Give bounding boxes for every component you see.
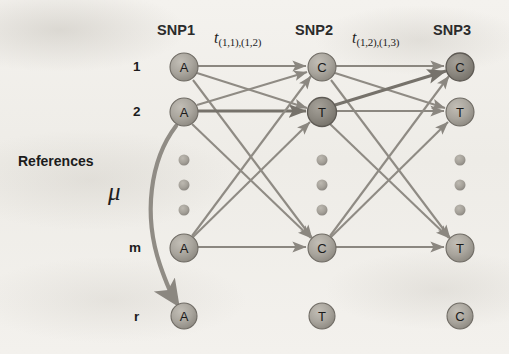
row-label-1: 1 (133, 59, 141, 74)
node-rr-snp2[interactable]: T (309, 303, 335, 329)
edge-s2r2-s3r1 (335, 71, 446, 105)
node-rm-snp3[interactable]: T (446, 234, 474, 262)
row-label-m: m (129, 240, 141, 255)
transition-label-t23: t(1,2),(1,3) (352, 30, 399, 48)
transition-label-subscript: (1,1),(1,2) (218, 36, 261, 48)
node-r1-snp2[interactable]: C (308, 53, 336, 81)
node-label: T (456, 241, 464, 256)
node-label: C (455, 60, 464, 75)
edge-group-snp1-snp2 (192, 66, 312, 247)
edge-group-snp2-snp3 (330, 66, 450, 247)
node-r1-snp3[interactable]: C (446, 53, 474, 81)
node-label: A (180, 309, 189, 324)
node-r1-snp1[interactable]: A (170, 53, 198, 81)
column-header-snp2: SNP2 (295, 22, 333, 38)
node-rm-snp2[interactable]: C (308, 234, 336, 262)
node-rr-snp1[interactable]: A (171, 303, 197, 329)
column-header-snp1: SNP1 (157, 22, 195, 38)
ellipsis-snp1 (179, 155, 190, 216)
mu-label: μ (108, 178, 121, 206)
node-rr-snp3[interactable]: C (447, 303, 473, 329)
row-label-r: r (134, 309, 139, 324)
ellipsis-snp2 (317, 155, 328, 216)
figure-container: A C C A T T (0, 0, 509, 354)
node-label: A (180, 105, 189, 120)
node-label: T (318, 105, 326, 120)
references-label: References (18, 153, 94, 169)
node-label: T (318, 309, 326, 324)
node-r2-snp1[interactable]: A (170, 98, 198, 126)
node-label: C (317, 60, 326, 75)
node-label: C (317, 241, 326, 256)
node-rm-snp1[interactable]: A (170, 234, 198, 262)
node-label: C (455, 309, 464, 324)
node-r2-snp3[interactable]: T (446, 98, 474, 126)
transition-label-t12: t(1,1),(1,2) (214, 30, 261, 48)
node-label: T (456, 105, 464, 120)
edge-s1r2-s2r1 (197, 72, 307, 105)
row-label-2: 2 (133, 104, 141, 119)
node-r2-snp2[interactable]: T (308, 98, 337, 127)
column-header-snp3: SNP3 (433, 22, 471, 38)
lattice-graph: A C C A T T (0, 0, 509, 354)
ellipsis-snp3 (455, 155, 466, 216)
transition-label-subscript: (1,2),(1,3) (356, 36, 399, 48)
node-label: A (180, 60, 189, 75)
node-label: A (180, 241, 189, 256)
mu-arrow (151, 126, 176, 302)
